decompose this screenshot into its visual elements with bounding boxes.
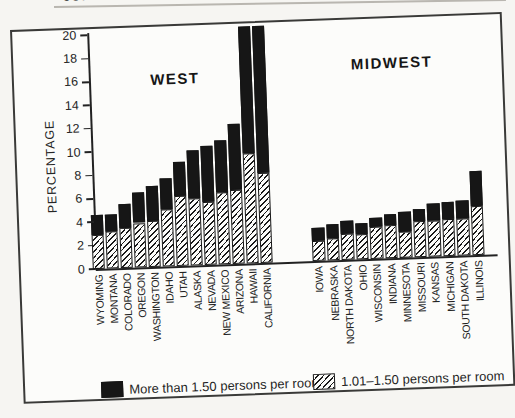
bar-minnesota-black bbox=[398, 212, 411, 232]
bar-new-mexico-hatched bbox=[216, 192, 230, 265]
y-tick-14 bbox=[83, 105, 90, 107]
y-tick-2 bbox=[88, 245, 95, 247]
plot-area: PERCENTAGE WEST MIDWEST WYOMINGMONTANACO… bbox=[12, 14, 513, 402]
bar-iowa-hatched bbox=[312, 241, 325, 261]
bar-alaska-hatched bbox=[188, 198, 202, 265]
y-tick-label-4: 4 bbox=[55, 215, 83, 230]
group-title-west: WEST bbox=[150, 69, 200, 88]
bar-alaska-black bbox=[187, 150, 200, 198]
bar-arizona-hatched bbox=[230, 190, 244, 264]
bar-colorado-hatched bbox=[119, 228, 132, 268]
bars-container: WYOMINGMONTANACOLORADOOREGONWASHINGTONID… bbox=[12, 14, 500, 32]
bar-idaho-hatched bbox=[161, 209, 175, 267]
bar-missouri-hatched bbox=[413, 221, 427, 258]
y-tick-label-20: 20 bbox=[48, 28, 76, 43]
y-tick-label-8: 8 bbox=[53, 168, 81, 183]
bar-nevada-black bbox=[200, 145, 214, 202]
y-tick-label-0: 0 bbox=[57, 262, 85, 277]
group-title-midwest: MIDWEST bbox=[351, 53, 433, 73]
y-tick-12 bbox=[84, 128, 91, 130]
bar-illinois-hatched bbox=[470, 206, 484, 256]
bar-north-dakota-hatched bbox=[341, 234, 354, 260]
y-tick-label-2: 2 bbox=[56, 239, 84, 254]
bar-minnesota-hatched bbox=[399, 232, 412, 258]
bar-colorado-black bbox=[118, 203, 130, 228]
y-tick-label-6: 6 bbox=[54, 192, 82, 207]
bar-missouri-black bbox=[412, 209, 425, 221]
bar-nebraska-hatched bbox=[326, 238, 339, 261]
bar-montana-black bbox=[105, 214, 117, 231]
y-tick-0 bbox=[89, 268, 96, 270]
bar-california-hatched bbox=[257, 172, 272, 262]
y-tick-label-16: 16 bbox=[50, 75, 78, 90]
bar-ohio-hatched bbox=[355, 234, 368, 259]
bar-utah-black bbox=[173, 162, 186, 196]
x-label-illinois: ILLINOIS bbox=[472, 260, 489, 370]
bar-utah-hatched bbox=[174, 195, 188, 266]
bar-new-mexico-black bbox=[214, 140, 227, 192]
bar-kansas-black bbox=[427, 204, 440, 221]
bar-wyoming-black bbox=[91, 215, 103, 235]
bar-wyoming-hatched bbox=[92, 235, 105, 269]
legend-label-101-150: 1.01–1.50 persons per room bbox=[341, 368, 505, 389]
legend-swatch-101-150 bbox=[313, 373, 336, 390]
bar-ohio-black bbox=[355, 223, 368, 235]
bar-indiana-hatched bbox=[384, 225, 398, 258]
y-tick-18 bbox=[81, 58, 88, 60]
y-tick-10 bbox=[85, 151, 92, 153]
bar-montana-hatched bbox=[105, 231, 118, 269]
bar-nebraska-black bbox=[326, 224, 339, 238]
bar-washington-hatched bbox=[147, 221, 160, 267]
bar-south-dakota-black bbox=[456, 200, 469, 218]
bar-wisconsin-black bbox=[369, 218, 382, 228]
y-tick-4 bbox=[87, 221, 94, 223]
bar-michigan-hatched bbox=[442, 218, 456, 256]
legend-swatch-more-than-150 bbox=[101, 381, 124, 398]
bar-california-black bbox=[252, 25, 269, 173]
bar-wisconsin-hatched bbox=[369, 227, 383, 259]
bar-kansas-hatched bbox=[427, 220, 441, 257]
y-tick-label-18: 18 bbox=[49, 51, 77, 66]
bar-oregon-hatched bbox=[133, 223, 146, 268]
bar-north-dakota-black bbox=[340, 221, 353, 234]
bar-oregon-black bbox=[132, 192, 145, 223]
bar-michigan-black bbox=[441, 202, 454, 219]
bar-indiana-black bbox=[383, 213, 396, 225]
bar-south-dakota-hatched bbox=[456, 218, 470, 256]
bar-arizona-black bbox=[228, 123, 242, 190]
tilted-scan-content: JUHY OF IHI PERCENTAGE WEST MIDWEST WYOM… bbox=[10, 12, 515, 404]
bar-idaho-black bbox=[160, 178, 173, 209]
y-tick-20 bbox=[80, 34, 87, 36]
y-tick-16 bbox=[82, 81, 89, 83]
bar-washington-black bbox=[146, 186, 159, 221]
bar-iowa-black bbox=[311, 228, 324, 241]
y-tick-label-14: 14 bbox=[51, 98, 79, 113]
y-tick-label-12: 12 bbox=[51, 122, 79, 137]
figure-frame: PERCENTAGE WEST MIDWEST WYOMINGMONTANACO… bbox=[10, 12, 515, 404]
bar-hawaii-hatched bbox=[243, 153, 259, 263]
y-tick-8 bbox=[85, 175, 92, 177]
bar-illinois-black bbox=[469, 171, 483, 207]
bar-nevada-hatched bbox=[202, 201, 216, 265]
y-tick-6 bbox=[86, 198, 93, 200]
y-tick-label-10: 10 bbox=[52, 145, 80, 160]
